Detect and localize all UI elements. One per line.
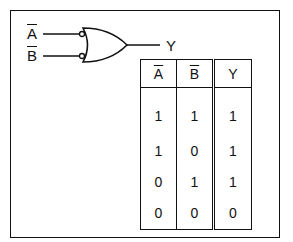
header-b: B xyxy=(177,60,214,88)
table-row: 1 0 1 xyxy=(141,135,252,166)
cell-a: 1 xyxy=(141,135,177,166)
cell-b: 1 xyxy=(177,88,214,136)
table-row: 0 0 0 xyxy=(141,197,252,229)
inversion-bubble-b xyxy=(80,54,85,59)
cell-b: 0 xyxy=(177,135,214,166)
or-gate-body xyxy=(83,28,127,62)
header-a: A xyxy=(141,60,177,88)
cell-a: 0 xyxy=(141,166,177,197)
cell-a: 0 xyxy=(141,197,177,229)
header-y: Y xyxy=(214,60,252,88)
cell-a: 1 xyxy=(141,88,177,136)
input-b-label: B xyxy=(27,48,37,63)
table-row: 1 1 1 xyxy=(141,88,252,136)
cell-b: 1 xyxy=(177,166,214,197)
truth-table-header: A B Y xyxy=(141,60,252,88)
output-y-label: Y xyxy=(166,38,176,53)
cell-y: 1 xyxy=(214,88,252,136)
cell-y: 1 xyxy=(214,135,252,166)
cell-y: 1 xyxy=(214,166,252,197)
cell-y: 0 xyxy=(214,197,252,229)
cell-b: 0 xyxy=(177,197,214,229)
truth-table: A B Y 1 1 1 1 0 1 0 1 1 0 0 0 xyxy=(140,59,252,230)
inversion-bubble-a xyxy=(80,32,85,37)
input-a-label: A xyxy=(27,26,37,41)
table-row: 0 1 1 xyxy=(141,166,252,197)
